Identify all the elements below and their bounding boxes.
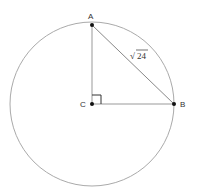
- chord-label-radical: √: [130, 51, 135, 61]
- chord-label-value: 24: [137, 51, 147, 61]
- diagram-canvas: A B C √ 24: [0, 0, 198, 193]
- point-c: [90, 102, 94, 106]
- point-b: [172, 102, 176, 106]
- segment-ab: [92, 25, 174, 104]
- label-b: B: [180, 100, 185, 109]
- geometry-diagram: A B C √ 24: [0, 0, 198, 193]
- label-a: A: [88, 12, 94, 21]
- label-c: C: [80, 100, 86, 109]
- point-a: [90, 23, 94, 27]
